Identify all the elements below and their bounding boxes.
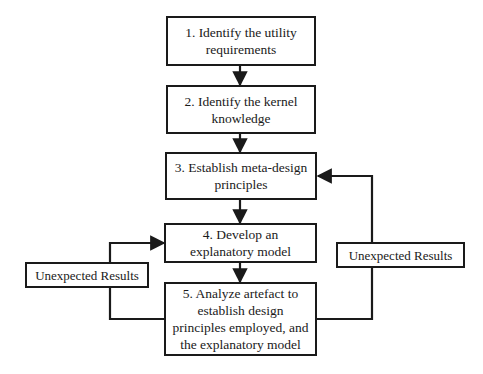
unexpected-results-left-box: Unexpected Results [25,262,149,288]
step-5-label: 5. Analyze artefact to establish design … [172,285,309,353]
flowchart-diagram: 1. Identify the utility requirements 2. … [0,0,483,374]
step-3-box: 3. Establish meta-design principles [165,152,317,200]
unexpected-results-left-label: Unexpected Results [35,268,139,283]
feedback-right-upper [318,176,372,242]
unexpected-results-right-box: Unexpected Results [336,242,465,268]
feedback-left-upper [110,243,164,262]
step-4-label: 4. Develop an explanatory model [172,226,309,260]
step-5-box: 5. Analyze artefact to establish design … [164,282,317,356]
step-3-label: 3. Establish meta-design principles [173,159,309,193]
unexpected-results-right-label: Unexpected Results [349,248,453,263]
step-4-box: 4. Develop an explanatory model [164,223,317,263]
step-1-label: 1. Identify the utility requirements [174,24,308,58]
step-1-box: 1. Identify the utility requirements [166,16,316,66]
step-2-box: 2. Identify the kernel knowledge [166,85,316,134]
feedback-left-lower [110,287,166,319]
step-2-label: 2. Identify the kernel knowledge [174,93,308,127]
feedback-right-lower [316,267,372,319]
